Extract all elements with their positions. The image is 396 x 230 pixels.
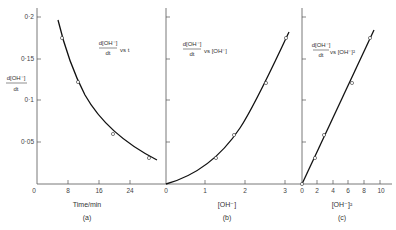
annotation-c: d[OH⁻] dt vs [OH⁻]² <box>312 42 355 58</box>
ytick-0.1: 0·1 <box>25 96 35 103</box>
xtick-b-0: 0 <box>164 187 168 194</box>
annotation-b-vs: vs [OH⁻] <box>204 48 227 54</box>
xtick-c-8: 8 <box>362 187 366 194</box>
x-ticks <box>68 180 380 184</box>
panel-label-a: (a) <box>83 214 92 222</box>
ylabel-numerator: d[OH⁻] <box>7 75 26 81</box>
annotation-c-num: d[OH⁻] <box>312 42 331 48</box>
annotation-b: d[OH⁻] dt vs [OH⁻] <box>183 41 228 57</box>
xtick-c-4: 4 <box>331 187 335 194</box>
panel-label-c: (c) <box>338 214 346 222</box>
annotation-a-num: d[OH⁻] <box>99 40 118 46</box>
xtick-b-2: 2 <box>243 187 247 194</box>
xtick-b-1: 1 <box>203 187 207 194</box>
ytick-0.15: 0·15 <box>21 55 34 62</box>
panel-label-b: (b) <box>223 214 232 222</box>
annotation-a-den: dt <box>105 50 110 56</box>
ytick-0: 0 <box>32 187 36 194</box>
annotation-b-num: d[OH⁻] <box>183 41 202 47</box>
xtick-c-6: 6 <box>346 187 350 194</box>
xlabel-a: Time/min <box>73 201 102 208</box>
xtick-a-16: 16 <box>95 187 103 194</box>
annotation-c-den: dt <box>318 52 323 58</box>
annotation-b-den: dt <box>189 51 194 57</box>
kinetics-figure: 0·2 0·15 0·1 0·05 0 8 16 24 0 1 2 3 0 2 … <box>0 0 396 230</box>
xtick-b-3: 3 <box>283 187 287 194</box>
x-tick-labels: 8 16 24 0 1 2 3 0 2 4 6 8 10 <box>66 187 385 194</box>
xtick-c-0: 0 <box>300 187 304 194</box>
xtick-c-2: 2 <box>315 187 319 194</box>
y-axis-label: d[OH⁻] dt <box>6 75 27 92</box>
ytick-0.05: 0·05 <box>21 138 34 145</box>
ytick-0.2: 0·2 <box>25 13 35 20</box>
xtick-a-24: 24 <box>126 187 134 194</box>
annotation-c-vs: vs [OH⁻]² <box>330 49 355 55</box>
xlabel-c: [OH⁻]² <box>332 201 353 209</box>
annotation-a: d[OH⁻] dt vs t <box>99 40 130 56</box>
ylabel-denominator: dt <box>13 86 18 92</box>
xlabel-b: [OH⁻] <box>218 201 236 209</box>
annotation-a-vs: vs t <box>120 47 130 53</box>
xtick-a-8: 8 <box>66 187 70 194</box>
xtick-c-10: 10 <box>377 187 385 194</box>
y-tick-labels: 0·2 0·15 0·1 0·05 0 <box>21 13 36 194</box>
series-b <box>166 32 289 184</box>
